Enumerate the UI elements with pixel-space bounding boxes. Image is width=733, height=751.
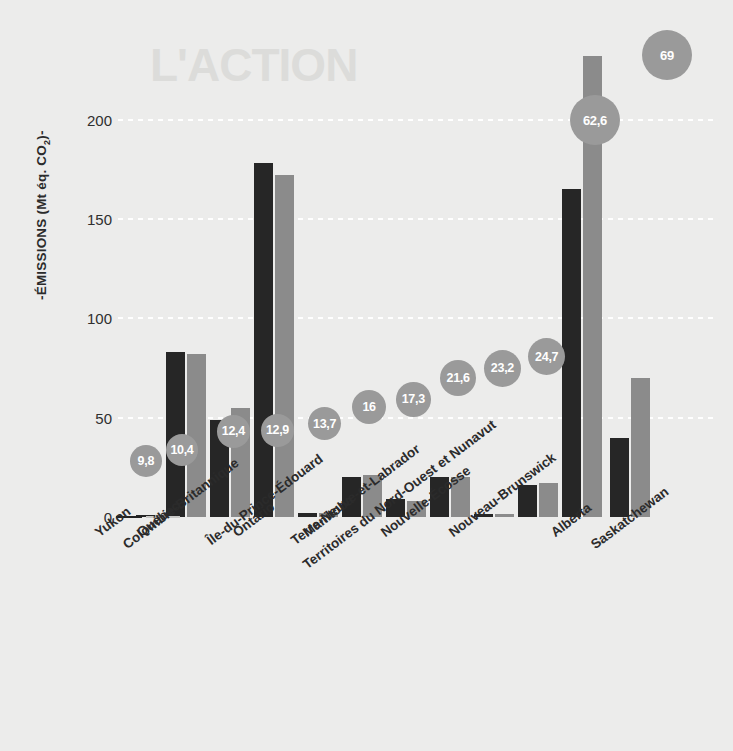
y-tick-label-200: 200	[52, 111, 112, 128]
bubble-marker: 16	[352, 390, 386, 424]
bubble-marker: 12,4	[217, 415, 250, 448]
bar-group	[518, 483, 558, 517]
bar-group	[342, 475, 382, 517]
bubble-marker: 24,7	[528, 338, 565, 375]
y-axis-title-subscript: 2	[42, 140, 52, 145]
bar-light	[319, 513, 338, 517]
y-tick-label-50: 50	[52, 409, 112, 426]
bar-dark	[610, 438, 629, 518]
bubble-marker: 23,2	[484, 350, 521, 387]
gridline-100	[118, 317, 718, 319]
bar-light	[631, 378, 650, 517]
emissions-bar-chart: -ÉMISSIONS (Mt éq. CO2)- 050100150200 9,…	[0, 0, 733, 751]
bar-light	[495, 514, 514, 517]
bubble-marker: 21,6	[440, 360, 476, 396]
bar-group	[298, 513, 338, 517]
bar-light	[407, 501, 426, 517]
y-axis-title-main: -ÉMISSIONS (Mt éq. CO	[34, 145, 49, 300]
bubble-marker: 62,6	[570, 95, 620, 145]
y-tick-label-0: 0	[52, 509, 112, 526]
bar-dark	[254, 163, 273, 517]
bubble-marker: 9,8	[130, 445, 162, 477]
zero-axis-dash	[116, 516, 180, 518]
y-axis-title-tail: )-	[34, 130, 49, 139]
bubble-marker: 69	[642, 30, 692, 80]
bar-dark	[342, 477, 361, 517]
bubble-marker: 12,9	[261, 414, 294, 447]
bar-light	[451, 477, 470, 517]
bubble-marker: 17,3	[396, 382, 431, 417]
bar-dark	[298, 513, 317, 517]
bar-group	[254, 163, 294, 517]
bar-group	[610, 378, 650, 517]
bar-group	[386, 499, 426, 517]
bar-light	[539, 483, 558, 517]
y-axis-title: -ÉMISSIONS (Mt éq. CO2)-	[34, 130, 52, 300]
bar-dark	[518, 485, 537, 517]
bubble-marker: 10,4	[166, 434, 198, 466]
bar-dark	[562, 189, 581, 517]
y-tick-label-100: 100	[52, 310, 112, 327]
bar-light	[275, 175, 294, 517]
gridline-200	[118, 119, 718, 121]
bar-group	[474, 514, 514, 517]
bar-group	[430, 477, 470, 517]
gridline-150	[118, 218, 718, 220]
y-tick-label-150: 150	[52, 210, 112, 227]
bar-dark	[386, 499, 405, 517]
bubble-marker: 13,7	[308, 407, 341, 440]
bar-light	[363, 475, 382, 517]
bar-dark	[474, 514, 493, 517]
bar-dark	[430, 477, 449, 517]
plot-area: 050100150200 9,810,412,412,913,71617,321…	[118, 40, 718, 517]
